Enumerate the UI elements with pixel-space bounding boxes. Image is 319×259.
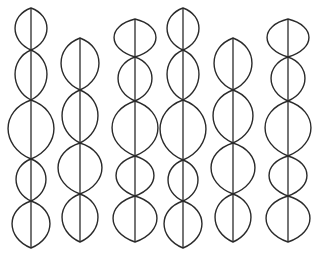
lobe-chain-diagram [0, 0, 319, 259]
lobe-chain-5 [211, 38, 255, 242]
lobe-chain-1 [8, 8, 54, 248]
lobe-chain-3 [112, 19, 158, 242]
lobe-chain-2 [58, 38, 102, 242]
diagram-canvas [0, 0, 319, 259]
lobe-chain-4 [160, 8, 206, 248]
lobe-chain-6 [265, 19, 311, 242]
